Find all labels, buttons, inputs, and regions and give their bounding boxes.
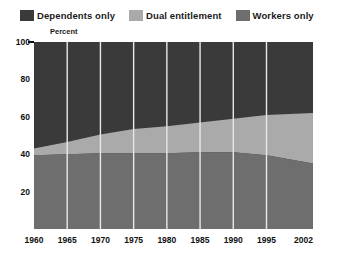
x-axis: 196019651970197519801985199019952002 bbox=[34, 231, 313, 253]
legend-item-dual-entitlement: Dual entitlement bbox=[129, 10, 222, 21]
y-axis-title: Percent bbox=[50, 27, 78, 36]
legend-swatch-icon bbox=[236, 10, 250, 21]
x-axis-tick-label: 1960 bbox=[25, 235, 44, 245]
x-axis-tick-label: 1975 bbox=[124, 235, 143, 245]
x-axis-tick-label: 1990 bbox=[224, 235, 243, 245]
legend-label: Dependents only bbox=[37, 10, 115, 21]
area-workers-only bbox=[34, 152, 313, 229]
x-axis-tick-label: 2002 bbox=[294, 235, 313, 245]
x-axis-tick-label: 1965 bbox=[58, 235, 77, 245]
stacked-area-chart: Dependents only Dual entitlement Workers… bbox=[0, 0, 337, 257]
y-axis-tick-label: 80 bbox=[21, 74, 30, 84]
plot-svg bbox=[34, 42, 313, 229]
x-axis-tick-label: 1980 bbox=[157, 235, 176, 245]
y-axis-tick-label: 20 bbox=[21, 187, 30, 197]
plot-area bbox=[34, 42, 313, 229]
area-series-group bbox=[34, 42, 313, 229]
legend-swatch-icon bbox=[129, 10, 143, 21]
legend-label: Dual entitlement bbox=[146, 10, 222, 21]
x-axis-tick-label: 1995 bbox=[257, 235, 276, 245]
x-axis-tick-label: 1970 bbox=[91, 235, 110, 245]
legend-item-dependents-only: Dependents only bbox=[20, 10, 115, 21]
legend-swatch-icon bbox=[20, 10, 34, 21]
chart-legend: Dependents only Dual entitlement Workers… bbox=[20, 10, 314, 21]
legend-label: Workers only bbox=[253, 10, 314, 21]
y-axis-tick-label: 60 bbox=[21, 112, 30, 122]
x-axis-tick-label: 1985 bbox=[191, 235, 210, 245]
y-axis: 20406080100 bbox=[0, 42, 34, 229]
y-axis-tick-label: 40 bbox=[21, 149, 30, 159]
legend-item-workers-only: Workers only bbox=[236, 10, 314, 21]
